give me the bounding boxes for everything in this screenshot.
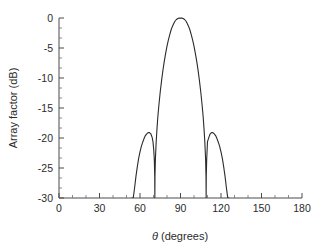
y-tick-label: 0	[47, 12, 53, 24]
x-tick-label: 120	[212, 202, 230, 214]
y-axis-label: Array factor (dB)	[7, 68, 19, 149]
y-tick-label: -20	[38, 132, 53, 144]
x-tick-label: 180	[293, 202, 311, 214]
array-factor-chart: 0306090120150180 0-5-10-15-20-25-30 θ (d…	[0, 0, 322, 252]
y-tick-label: -10	[38, 72, 53, 84]
x-axis-label: θ (degrees)	[152, 230, 208, 242]
x-tick-label: 0	[56, 202, 62, 214]
y-tick-label: -25	[38, 162, 53, 174]
x-tick-label: 30	[94, 202, 106, 214]
y-tick-label: -30	[38, 192, 53, 204]
chart-svg: 0306090120150180 0-5-10-15-20-25-30 θ (d…	[0, 0, 322, 252]
x-tick-label: 60	[134, 202, 146, 214]
chart-background	[0, 0, 322, 252]
y-tick-label: -5	[44, 42, 53, 54]
x-tick-label: 150	[253, 202, 271, 214]
x-tick-label: 90	[175, 202, 187, 214]
y-tick-label: -15	[38, 102, 53, 114]
